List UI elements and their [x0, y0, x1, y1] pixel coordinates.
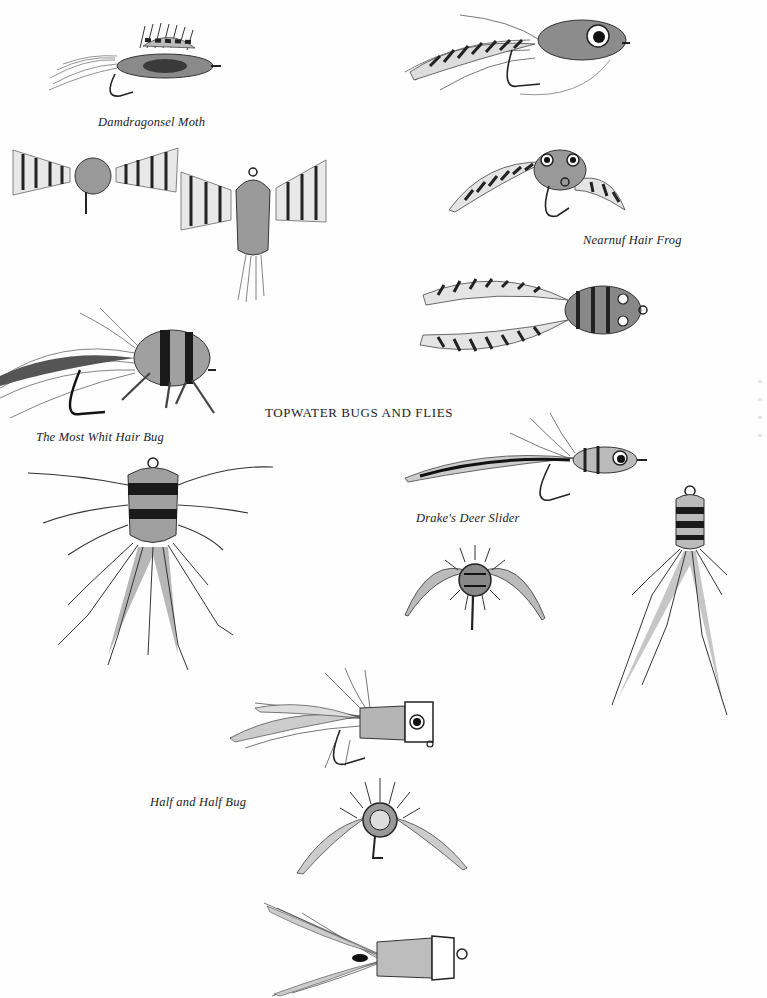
popper-icon	[225, 668, 440, 773]
caption-drakes-deer-slider: Drake's Deer Slider	[416, 511, 520, 526]
popper-top-icon	[262, 898, 477, 998]
hair-bug-top-icon	[28, 455, 278, 670]
caption-nearnuf-hair-frog: Nearnuf Hair Frog	[583, 233, 682, 248]
deer-slider-top-icon	[612, 485, 737, 720]
illustration-plate: Damdragonsel Moth	[0, 0, 767, 998]
page-edge-marks	[758, 380, 764, 470]
deer-slider-front-icon	[400, 540, 550, 635]
popper-front-icon	[295, 778, 470, 878]
moth-fly-icon	[45, 18, 225, 98]
caption-half-and-half-bug: Half and Half Bug	[150, 795, 246, 810]
moth-front-icon	[8, 140, 183, 220]
frog-fly-icon	[400, 10, 630, 105]
hair-frog-top-icon	[418, 265, 648, 365]
hair-frog-icon	[445, 140, 630, 225]
hair-bug-icon	[0, 308, 220, 423]
caption-damdragonsel-moth: Damdragonsel Moth	[98, 115, 205, 130]
caption-most-whit-hair-bug: The Most Whit Hair Bug	[36, 430, 164, 445]
moth-top-icon	[176, 160, 331, 305]
